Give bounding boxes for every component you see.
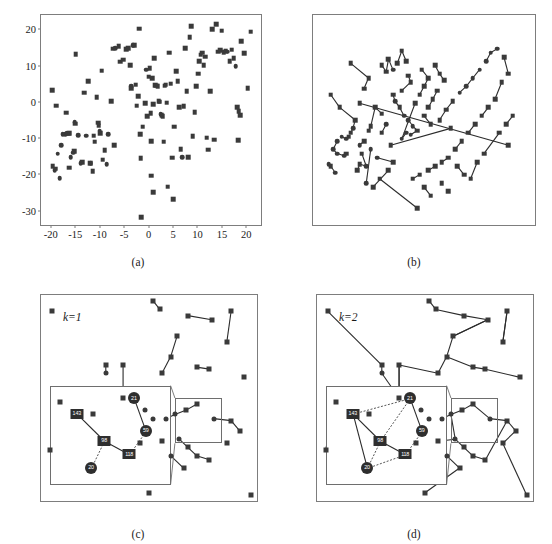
data-point: [487, 416, 492, 421]
data-point: [468, 177, 473, 182]
data-point: [453, 147, 458, 152]
data-point: [513, 428, 518, 433]
data-point: [337, 105, 342, 110]
data-point: [404, 130, 409, 135]
y-axis-tick-mark: [38, 210, 41, 211]
data-point: [444, 107, 449, 112]
data-point: [239, 39, 244, 44]
data-point: [185, 313, 190, 318]
data-point: [346, 135, 351, 140]
data-point: [499, 80, 504, 85]
link-line: [503, 311, 507, 342]
link-line: [353, 414, 367, 468]
k-annotation-c: k=1: [63, 311, 82, 323]
inset-node-118: 118: [399, 449, 412, 459]
data-point: [55, 151, 60, 156]
inset-magnifier-c: 14321599811820: [50, 386, 171, 485]
link-line: [447, 357, 473, 367]
y-axis-tick-label: 0: [31, 96, 36, 107]
data-point: [59, 143, 64, 148]
data-point: [446, 189, 451, 194]
data-point: [485, 317, 490, 322]
inset-connector: [447, 443, 451, 484]
data-point: [248, 492, 253, 497]
data-point: [134, 82, 139, 87]
data-point: [99, 68, 104, 73]
x-axis-tick-label: 10: [192, 229, 203, 240]
y-axis-tick-mark: [38, 101, 41, 102]
data-point: [500, 441, 505, 446]
data-point: [140, 124, 145, 129]
data-point: [189, 24, 194, 29]
data-point: [433, 63, 438, 68]
x-axis-tick-mark: [75, 225, 76, 228]
data-point: [121, 57, 126, 62]
data-point: [194, 453, 199, 458]
x-axis-tick-label: -20: [44, 229, 58, 240]
data-point: [89, 161, 94, 166]
y-axis-tick-label: -10: [22, 133, 36, 144]
data-point: [375, 156, 380, 161]
data-point: [129, 87, 134, 92]
data-point: [67, 165, 72, 170]
data-point: [207, 367, 212, 372]
x-axis-tick-mark: [50, 225, 51, 228]
data-point: [444, 354, 449, 359]
inset-node-20: 20: [85, 462, 97, 474]
data-point: [488, 51, 493, 56]
data-point: [497, 130, 502, 135]
data-point: [164, 416, 169, 421]
data-point: [208, 89, 213, 94]
data-point: [479, 114, 484, 119]
data-point: [136, 94, 141, 99]
data-point: [371, 185, 376, 190]
plot-area-b: [312, 14, 536, 226]
x-axis-tick-mark: [197, 225, 198, 228]
data-point: [471, 76, 476, 81]
data-point: [427, 416, 432, 421]
data-point: [184, 89, 189, 94]
data-point: [422, 84, 427, 89]
y-axis-tick-label: -30: [22, 205, 36, 216]
data-point: [423, 490, 428, 495]
data-point: [386, 168, 391, 173]
data-point: [344, 151, 349, 156]
data-point: [448, 412, 453, 417]
data-point: [49, 309, 54, 314]
data-point: [90, 412, 95, 417]
x-axis-tick-label: -5: [120, 229, 129, 240]
data-point: [229, 418, 234, 423]
link-line: [484, 133, 500, 154]
data-point: [233, 64, 238, 69]
data-point: [64, 110, 69, 115]
x-axis-tick-mark: [99, 225, 100, 228]
data-point: [246, 86, 251, 91]
data-point: [229, 309, 234, 314]
data-point: [406, 74, 411, 79]
data-point: [442, 78, 447, 83]
data-point: [435, 439, 440, 444]
data-point: [151, 416, 156, 421]
data-point: [174, 69, 179, 74]
data-point: [400, 48, 405, 53]
data-point: [185, 445, 190, 450]
data-point: [391, 93, 396, 98]
data-point: [236, 138, 241, 143]
plot-area-c: k=1 14321599811820: [40, 294, 258, 502]
data-point: [229, 47, 234, 52]
data-point: [159, 371, 164, 376]
x-axis-tick-mark: [173, 225, 174, 228]
data-point: [433, 307, 438, 312]
data-point: [384, 122, 389, 127]
data-point: [440, 416, 445, 421]
data-point: [357, 101, 362, 106]
data-point: [408, 132, 413, 137]
data-point: [73, 121, 78, 126]
plot-area-d: k=2 14321599811820: [316, 294, 534, 502]
inset-node-20: 20: [361, 462, 373, 474]
data-point: [92, 139, 97, 144]
data-point: [428, 122, 433, 127]
data-point: [366, 412, 371, 417]
data-point: [435, 88, 440, 93]
data-point: [362, 139, 367, 144]
